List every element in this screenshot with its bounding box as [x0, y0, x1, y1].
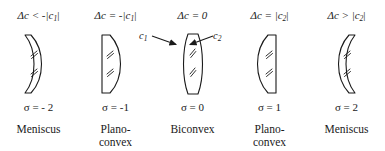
sigma-label-1: σ = -1: [77, 101, 154, 114]
condition-label-0: Δc < -|c1|: [0, 9, 77, 25]
lens-column-4: Δc > |c2| σ = 2 Meniscus: [308, 0, 385, 151]
lens-name-line1-0: Meniscus: [0, 123, 77, 136]
lens-name-0: Meniscus: [0, 123, 77, 136]
condition-post-3: |: [286, 9, 288, 21]
condition-label-2: Δc = 0: [154, 9, 231, 25]
lens-name-1: Plano- convex: [77, 123, 154, 148]
sigma-label-3: σ = 1: [231, 101, 308, 114]
condition-label-3: Δc = |c2|: [231, 9, 308, 25]
condition-text-2: Δc = 0: [178, 9, 208, 21]
sigma-label-2: σ = 0: [154, 101, 231, 114]
lens-name-line1-1: Plano-: [77, 123, 154, 136]
lens-name-4: Meniscus: [308, 123, 385, 136]
lens-column-2: Δc = 0 σ = 0 Biconvex: [154, 0, 231, 151]
sigma-label-4: σ = 2: [308, 101, 385, 114]
condition-text-0: Δc < -|c: [18, 9, 54, 21]
lens-shape-0: [0, 30, 77, 98]
lens-shape-factor-figure: Δc < -|c1| σ = - 2 Meniscus Δc = -|c1|: [0, 0, 385, 151]
callout-c2-sub: 2: [218, 34, 222, 43]
condition-label-1: Δc = -|c1|: [77, 9, 154, 25]
condition-text-3: Δc = |c: [250, 9, 282, 21]
lens-name-3: Plano- convex: [231, 123, 308, 148]
lens-name-line1-3: Plano-: [231, 123, 308, 136]
lens-name-line1-4: Meniscus: [308, 123, 385, 136]
lens-column-0: Δc < -|c1| σ = - 2 Meniscus: [0, 0, 77, 151]
lens-name-2: Biconvex: [154, 123, 231, 136]
callout-c1-sub: 1: [144, 34, 148, 43]
callout-label-c1: c1: [139, 30, 147, 43]
lens-shape-3: [231, 30, 308, 98]
lens-name-line1-2: Biconvex: [154, 123, 231, 136]
condition-post-0: |: [57, 9, 59, 21]
meniscus-positive-icon: [319, 30, 375, 98]
callout-label-c2: c2: [213, 30, 221, 43]
sigma-label-0: σ = - 2: [0, 101, 77, 114]
lens-column-3: Δc = |c2| σ = 1 Plano- convex: [231, 0, 308, 151]
condition-label-4: Δc > |c2|: [308, 9, 385, 25]
lens-name-line2-1: convex: [77, 136, 154, 149]
lens-shape-4: [308, 30, 385, 98]
plano-convex-right-icon: [242, 30, 298, 98]
condition-post-4: |: [363, 9, 365, 21]
condition-text-1: Δc = -|c: [95, 9, 131, 21]
lens-name-line2-3: convex: [231, 136, 308, 149]
condition-post-1: |: [134, 9, 136, 21]
meniscus-negative-icon: [11, 30, 67, 98]
condition-text-4: Δc > |c: [327, 9, 359, 21]
plano-convex-left-icon: [88, 30, 144, 98]
lens-column-1: Δc = -|c1| σ = -1 Plano- convex: [77, 0, 154, 151]
